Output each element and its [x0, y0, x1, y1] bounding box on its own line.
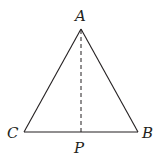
label-a: A [73, 7, 86, 25]
side-ac [24, 29, 81, 132]
label-b: B [141, 124, 153, 142]
side-ab [81, 29, 138, 132]
triangle-diagram: A C B P [0, 0, 160, 162]
label-p: P [73, 139, 85, 157]
label-c: C [7, 124, 19, 142]
